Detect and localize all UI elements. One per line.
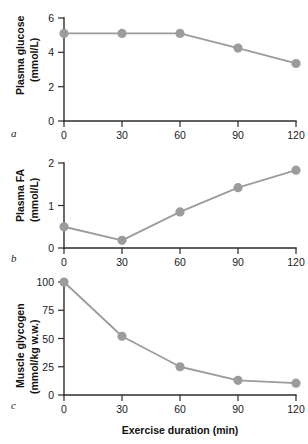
panel-c-x-ticks: 0 30 60 90 120 [61,395,305,415]
data-point [175,29,184,38]
panel-b-x-ticks: 0 30 60 90 120 [61,248,305,268]
panel-c-ytick-0: 0 [48,389,54,401]
panel-a-y-ticks: 0 2 4 6 [48,12,64,127]
panel-c-series-markers [59,277,300,387]
panel-c-xlabel: Exercise duration (min) [122,424,239,436]
data-point [233,376,242,385]
panel-b-plasma-fa: Plasma FA (mmol/L) 0 1 2 0 30 60 90 120 … [0,144,308,276]
panel-c-xtick-90: 90 [232,403,244,415]
figure-container: Plasma glucose (mmol/L) 0 2 4 6 0 30 60 … [0,0,308,444]
panel-c-ytick-25: 25 [42,361,54,373]
panel-c-xtick-30: 30 [116,403,128,415]
panel-c-xtick-120: 120 [287,403,305,415]
data-point [291,379,300,388]
panel-b-xtick-60: 60 [174,256,186,268]
panel-a-ylabel-line2: (mmol/L) [28,38,40,82]
panel-a-xtick-90: 90 [232,129,244,141]
panel-b-ytick-0: 0 [48,242,54,254]
panel-b-ylabel-line1: Plasma FA [14,168,26,222]
data-point [175,207,184,216]
panel-a-ytick-4: 4 [48,46,54,58]
panel-a-xtick-0: 0 [61,129,67,141]
data-point [59,277,68,286]
panel-a-ytick-0: 0 [48,115,54,127]
panel-a-series-markers [59,29,300,68]
panel-c-ytick-75: 75 [42,304,54,316]
panel-b-series-line [64,170,296,240]
panel-a-ylabel-line1: Plasma glucose [14,15,26,95]
data-point [59,222,68,231]
panel-a-ytick-6: 6 [48,12,54,24]
panel-b-xtick-0: 0 [61,256,67,268]
data-point [233,43,242,52]
panel-b-xtick-120: 120 [287,256,305,268]
panel-a-xtick-120: 120 [287,129,305,141]
panel-b-ytick-1: 1 [48,200,54,212]
panel-c-xtick-60: 60 [174,403,186,415]
data-point [291,166,300,175]
panel-a-xtick-30: 30 [116,129,128,141]
panel-a-x-ticks: 0 30 60 90 120 [61,121,305,141]
panel-b-xtick-30: 30 [116,256,128,268]
data-point [233,183,242,192]
data-point [59,29,68,38]
data-point [117,332,126,341]
panel-a-plasma-glucose: Plasma glucose (mmol/L) 0 2 4 6 0 30 60 … [0,0,308,148]
panel-b-y-ticks: 0 1 2 [48,157,64,254]
panel-c-letter: c [11,399,16,411]
panel-b-letter: b [11,252,17,264]
panel-c-ylabel-line1: Muscle glycogen [14,303,26,388]
panel-a-xtick-60: 60 [174,129,186,141]
data-point [117,236,126,245]
panel-b-ytick-2: 2 [48,157,54,169]
panel-c-xtick-0: 0 [61,403,67,415]
panel-a-ytick-2: 2 [48,81,54,93]
panel-b-xtick-90: 90 [232,256,244,268]
panel-c-y-ticks: 0 25 50 75 100 [36,276,64,401]
data-point [117,29,126,38]
panel-a-letter: a [11,127,17,139]
panel-c-ytick-100: 100 [36,276,54,288]
panel-c-ytick-50: 50 [42,333,54,345]
data-point [175,362,184,371]
data-point [291,59,300,68]
panel-b-ylabel-line2: (mmol/L) [28,178,40,222]
panel-c-ylabel-line2: (mmol/kg w.w.) [28,320,40,394]
panel-c-muscle-glycogen: Muscle glycogen (mmol/kg w.w.) 0 25 50 7… [0,276,308,440]
panel-b-series-markers [59,166,300,245]
